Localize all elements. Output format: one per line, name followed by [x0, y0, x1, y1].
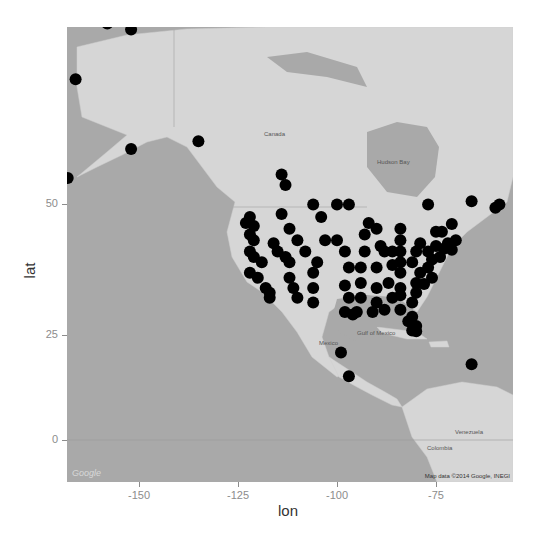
- x-tick-label-100: -100: [317, 489, 357, 501]
- data-point: [355, 292, 367, 304]
- data-point: [406, 256, 418, 268]
- data-point: [291, 292, 303, 304]
- x-axis-label: lon: [278, 502, 298, 519]
- central-america-land: [329, 357, 402, 407]
- data-point: [311, 256, 323, 268]
- data-point: [343, 292, 355, 304]
- google-logo: Google: [72, 468, 101, 478]
- data-point: [351, 306, 363, 318]
- x-tick-mark-150: [139, 482, 140, 487]
- data-point: [466, 358, 478, 370]
- data-point: [450, 234, 462, 246]
- data-point: [371, 282, 383, 294]
- map-label-canada: Canada: [264, 131, 285, 137]
- data-point: [418, 278, 430, 290]
- data-point: [436, 226, 448, 238]
- north-america-land: [77, 27, 513, 377]
- map-credits: Map data ©2014 Google, INEGI: [425, 473, 510, 479]
- data-point: [367, 306, 379, 318]
- data-point: [355, 262, 367, 274]
- x-tick-mark-75: [436, 482, 437, 487]
- data-point: [343, 370, 355, 382]
- data-point: [466, 195, 478, 207]
- data-point: [446, 218, 458, 230]
- data-point: [394, 223, 406, 235]
- y-axis-label: lat: [21, 263, 38, 279]
- data-point: [493, 199, 505, 211]
- data-point: [307, 282, 319, 294]
- data-point: [125, 143, 137, 155]
- data-point: [379, 304, 391, 316]
- map-label-colombia: Colombia: [427, 445, 452, 451]
- data-point: [67, 172, 74, 184]
- data-point: [394, 267, 406, 279]
- data-point: [371, 262, 383, 274]
- data-point: [307, 199, 319, 211]
- data-point: [276, 169, 288, 181]
- data-point: [284, 223, 296, 235]
- data-point: [394, 304, 406, 316]
- map-label-hudson-bay: Hudson Bay: [377, 159, 410, 165]
- data-point: [280, 179, 292, 191]
- data-point: [371, 223, 383, 235]
- data-point: [343, 262, 355, 274]
- data-point: [307, 267, 319, 279]
- data-point: [406, 311, 418, 323]
- data-point: [276, 208, 288, 220]
- x-tick-label-75: -75: [416, 489, 456, 501]
- data-point: [248, 234, 260, 246]
- y-tick-label-0: 0: [28, 433, 58, 445]
- y-tick-label-25: 25: [28, 328, 58, 340]
- y-tick-mark-50: [62, 204, 67, 205]
- land-masses: [77, 27, 513, 482]
- data-point: [284, 256, 296, 268]
- data-point: [331, 234, 343, 246]
- data-point: [394, 289, 406, 301]
- data-point: [394, 246, 406, 258]
- data-point: [339, 279, 351, 291]
- plot-panel: Canada Hudson Bay Mexico Gulf of Mexico …: [67, 27, 513, 482]
- data-point: [192, 135, 204, 147]
- data-point: [256, 256, 268, 268]
- x-tick-mark-100: [337, 482, 338, 487]
- y-tick-mark-0: [62, 440, 67, 441]
- data-point: [383, 277, 395, 289]
- y-tick-mark-25: [62, 335, 67, 336]
- data-point: [252, 272, 264, 284]
- map-label-mexico: Mexico: [319, 340, 338, 346]
- x-tick-label-150: -150: [119, 489, 159, 501]
- data-point: [343, 199, 355, 211]
- data-point: [101, 27, 113, 30]
- data-point: [264, 292, 276, 304]
- data-point: [359, 246, 371, 258]
- data-point: [315, 211, 327, 223]
- x-tick-mark-125: [238, 482, 239, 487]
- data-point: [291, 234, 303, 246]
- map-label-gulf-of-mexico: Gulf of Mexico: [357, 330, 395, 336]
- data-point: [319, 234, 331, 246]
- hispaniola-land: [429, 341, 449, 347]
- data-point: [70, 73, 82, 85]
- y-tick-label-50: 50: [28, 197, 58, 209]
- data-point: [339, 246, 351, 258]
- data-point: [359, 229, 371, 241]
- map-label-venezuela: Venezuela: [455, 429, 483, 435]
- data-point: [394, 256, 406, 268]
- data-point: [422, 199, 434, 211]
- data-point: [355, 277, 367, 289]
- x-tick-label-125: -125: [218, 489, 258, 501]
- data-point: [307, 297, 319, 309]
- data-point: [299, 246, 311, 258]
- basemap: [67, 27, 513, 482]
- data-point: [394, 234, 406, 246]
- data-point: [335, 347, 347, 359]
- data-point: [331, 199, 343, 211]
